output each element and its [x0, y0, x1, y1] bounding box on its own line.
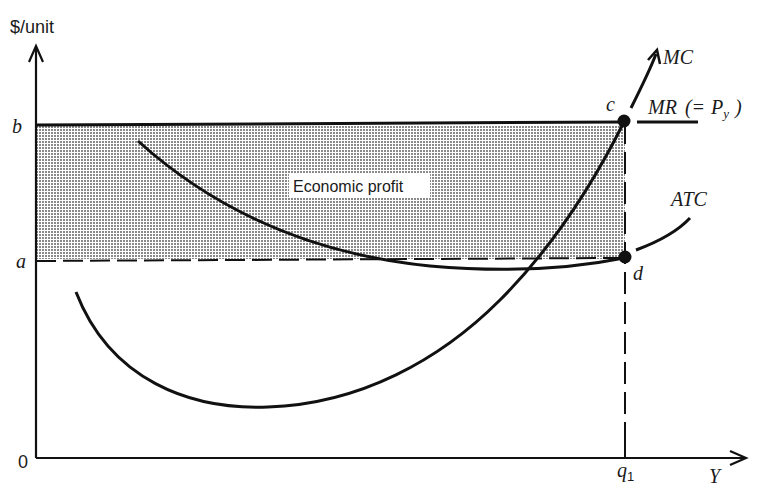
- mc-label: MC: [662, 46, 694, 68]
- point-d-marker: [619, 251, 632, 264]
- atc-curve-right: [636, 218, 690, 250]
- atc-label: ATC: [669, 188, 708, 210]
- point-d-label: d: [633, 262, 644, 284]
- economic-profit-label: Economic profit: [293, 178, 404, 195]
- origin-label: 0: [18, 452, 28, 472]
- y-axis-label: $/unit: [10, 17, 54, 37]
- y-tick-a: a: [16, 250, 26, 272]
- point-c-marker: [618, 115, 631, 128]
- cost-curve-diagram: Economic profit $/unit Y 0 b a q1 MC ATC…: [0, 0, 760, 492]
- mr-label: MR(=Py): [647, 96, 742, 121]
- x-tick-q1: q1: [617, 459, 634, 484]
- x-axis-label: Y: [709, 465, 722, 487]
- point-c-label: c: [606, 93, 615, 115]
- y-tick-b: b: [12, 115, 22, 137]
- mr-line: [36, 122, 624, 125]
